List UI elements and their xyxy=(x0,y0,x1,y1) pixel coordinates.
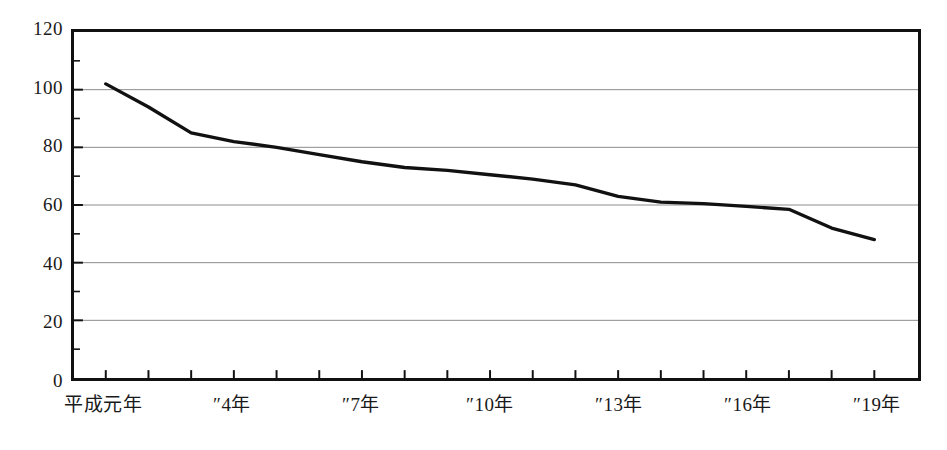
y-axis-tick-label: 40 xyxy=(5,254,63,273)
x-axis-tick-label: 平成元年 xyxy=(64,394,142,416)
y-axis-tick-label: 80 xyxy=(5,136,63,155)
y-axis-tick-label: 120 xyxy=(5,19,63,38)
plot-area xyxy=(71,29,921,381)
x-axis-tick-label: ″16年 xyxy=(724,394,772,416)
x-axis-tick-label: ″10年 xyxy=(466,394,514,416)
data-series-line xyxy=(106,84,875,240)
y-axis-tick-label: 60 xyxy=(5,195,63,214)
line-chart: 020406080100120 平成元年″4年″7年″10年″13年″16年″1… xyxy=(0,0,947,450)
y-axis-tick-label: 20 xyxy=(5,312,63,331)
y-axis-labels: 020406080100120 xyxy=(0,0,63,450)
x-axis-tick-label: ″19年 xyxy=(853,394,901,416)
x-axis-tick-label: ″4年 xyxy=(213,394,251,416)
x-axis-tick-label: ″7年 xyxy=(342,394,380,416)
y-axis-tick-label: 0 xyxy=(5,371,63,390)
x-axis-tick-label: ″13年 xyxy=(595,394,643,416)
x-axis-labels: 平成元年″4年″7年″10年″13年″16年″19年 xyxy=(0,394,947,434)
y-axis-tick-label: 100 xyxy=(5,78,63,97)
data-line-layer xyxy=(74,32,918,378)
